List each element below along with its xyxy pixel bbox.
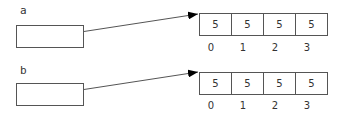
array-cell: 5 — [295, 13, 328, 36]
array-index: 0 — [195, 42, 227, 53]
array-a: 5 5 5 5 — [199, 13, 328, 36]
variable-label-b: b — [20, 64, 27, 77]
array-cell: 5 — [263, 13, 296, 36]
array-cell: 5 — [263, 72, 296, 95]
array-cell: 5 — [199, 72, 232, 95]
array-indices-b: 0 1 2 3 — [195, 100, 323, 111]
variable-label-a: a — [20, 4, 27, 17]
array-index: 0 — [195, 100, 227, 111]
array-index: 3 — [291, 100, 323, 111]
array-index: 2 — [259, 42, 291, 53]
array-index: 1 — [227, 100, 259, 111]
array-cell: 5 — [295, 72, 328, 95]
variable-box-a — [16, 25, 84, 48]
array-cell: 5 — [199, 13, 232, 36]
array-index: 2 — [259, 100, 291, 111]
array-b: 5 5 5 5 — [199, 72, 328, 95]
array-cell: 5 — [231, 72, 264, 95]
variable-box-b — [16, 83, 84, 106]
array-indices-a: 0 1 2 3 — [195, 42, 323, 53]
array-cell: 5 — [231, 13, 264, 36]
array-index: 1 — [227, 42, 259, 53]
array-index: 3 — [291, 42, 323, 53]
